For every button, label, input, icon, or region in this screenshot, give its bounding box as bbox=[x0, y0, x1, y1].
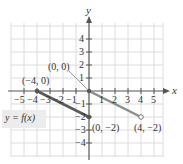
y-tick-label: −1 bbox=[75, 98, 86, 109]
point-label-4-neg2: (4, −2) bbox=[134, 122, 161, 134]
point-label-0-0: (0, 0) bbox=[48, 61, 70, 73]
closed-endpoint-icon bbox=[35, 89, 40, 94]
grid bbox=[11, 23, 163, 157]
y-tick-label: 2 bbox=[79, 59, 84, 70]
function-label: y = f(x) bbox=[5, 112, 35, 123]
x-tick-label: 4 bbox=[138, 94, 143, 105]
x-tick-label: −5 bbox=[14, 94, 25, 105]
y-axis-arrow-icon bbox=[86, 16, 92, 23]
x-tick-label: 1 bbox=[99, 94, 104, 105]
point-label-neg4-0: (−4, 0) bbox=[22, 75, 49, 87]
axes bbox=[8, 16, 170, 160]
y-tick-label: −3 bbox=[75, 124, 86, 135]
point-label-0-neg2: (0, −2) bbox=[92, 122, 119, 134]
y-tick-label: 1 bbox=[79, 72, 84, 83]
open-endpoint-icon bbox=[139, 115, 144, 120]
closed-endpoint-icon bbox=[87, 115, 92, 120]
y-tick-label: −4 bbox=[75, 137, 86, 148]
y-tick-label: 4 bbox=[79, 33, 84, 44]
x-tick-label: −3 bbox=[40, 94, 51, 105]
x-axis-arrow-icon bbox=[163, 88, 170, 94]
graph-canvas: y x −5 −4 −3 −2 −1 1 2 3 4 5 4 3 2 1 −1 … bbox=[0, 0, 183, 164]
x-tick-label: −2 bbox=[53, 94, 64, 105]
x-tick-label: 5 bbox=[151, 94, 156, 105]
x-tick-label: −4 bbox=[27, 94, 38, 105]
y-tick-label: −2 bbox=[75, 111, 86, 122]
x-tick-label: 2 bbox=[112, 94, 117, 105]
y-tick-label: 3 bbox=[79, 46, 84, 57]
origin-point-icon bbox=[87, 89, 91, 93]
y-axis-label: y bbox=[85, 4, 91, 16]
x-axis-label: x bbox=[171, 84, 177, 96]
x-tick-label: 3 bbox=[125, 94, 130, 105]
